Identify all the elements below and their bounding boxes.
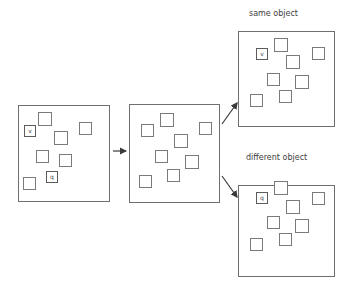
object-square: [312, 192, 325, 205]
object-square: [312, 47, 325, 60]
object-square: [36, 150, 49, 163]
object-square: [141, 124, 154, 137]
object-square: [59, 154, 72, 167]
object-square: [279, 233, 292, 246]
object-square-label: q: [257, 193, 267, 203]
object-square: [167, 169, 180, 182]
object-square: [79, 122, 92, 135]
object-square: [295, 219, 309, 233]
object-square-label: v: [25, 126, 35, 136]
object-square: [250, 238, 263, 251]
object-square: [295, 75, 309, 89]
object-square: [286, 200, 300, 214]
object-square: [23, 177, 36, 190]
object-square: [279, 90, 292, 103]
object-square: [185, 155, 199, 169]
object-square: [267, 73, 280, 86]
figure-canvas: same object different object vqvq: [0, 0, 351, 283]
object-square: [286, 55, 300, 69]
object-square-q: q: [46, 171, 58, 183]
arrow-delay-to-different: [222, 176, 237, 197]
caption-different-object: different object: [246, 153, 307, 163]
object-square-v: v: [256, 48, 268, 60]
object-square: [199, 122, 212, 135]
object-square: [54, 131, 68, 145]
arrow-delay-to-same: [222, 103, 237, 124]
object-square-label: q: [47, 172, 57, 182]
caption-same-object: same object: [249, 9, 298, 19]
object-square: [250, 94, 263, 107]
object-square: [267, 216, 280, 229]
object-square: [139, 175, 152, 188]
object-square: [155, 150, 168, 163]
object-square: [274, 38, 288, 52]
object-square-label: v: [257, 49, 267, 59]
object-square: [174, 134, 188, 148]
object-square: [274, 181, 288, 195]
delay-display-panel: [129, 104, 220, 203]
object-square: [160, 113, 174, 127]
object-square-v: v: [24, 125, 36, 137]
object-square: [38, 112, 52, 126]
object-square-q: q: [256, 192, 268, 204]
